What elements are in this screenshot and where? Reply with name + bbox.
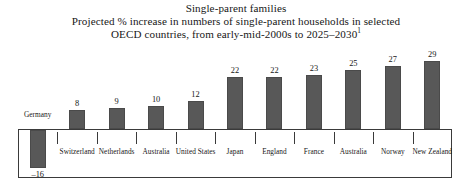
category-label: France xyxy=(294,147,333,156)
chart-title-line-2: Projected % increase in numbers of singl… xyxy=(0,15,472,28)
bar-column: 22Japan xyxy=(215,44,254,193)
bar-column: –16Germany xyxy=(18,44,57,193)
cell-divider xyxy=(215,132,216,144)
category-label: Japan xyxy=(215,147,254,156)
category-label: Netherlands xyxy=(97,147,136,156)
category-label: United States xyxy=(176,147,215,156)
bar-column: 25Australia xyxy=(334,44,373,193)
bar-column: 23France xyxy=(294,44,333,193)
bar-value-label: –16 xyxy=(18,170,57,179)
category-label: Australia xyxy=(334,147,373,156)
category-label: New Zealand xyxy=(413,147,452,156)
bar xyxy=(109,108,125,129)
bar-value-label: 8 xyxy=(57,99,96,108)
bar-value-label: 25 xyxy=(334,59,373,68)
bar-value-label: 23 xyxy=(294,64,333,73)
cell-divider xyxy=(334,132,335,144)
category-label: Switzerland xyxy=(57,147,96,156)
bar xyxy=(69,110,85,129)
cell-divider xyxy=(176,132,177,144)
bar xyxy=(385,66,401,129)
category-label: England xyxy=(255,147,294,156)
bar-column: 29New Zealand xyxy=(413,44,452,193)
cell-divider xyxy=(97,132,98,144)
bar-value-label: 9 xyxy=(97,97,136,106)
bar-value-label: 29 xyxy=(413,50,452,59)
cell-divider xyxy=(294,132,295,144)
category-label: Australia xyxy=(136,147,175,156)
bar-column: 27Norway xyxy=(373,44,412,193)
cell-divider xyxy=(136,132,137,144)
category-label: Germany xyxy=(18,110,57,119)
footnote-marker: 1 xyxy=(357,28,361,36)
bar-value-label: 12 xyxy=(176,90,215,99)
plot-area: –16Germany8Switzerland9Netherlands10Aust… xyxy=(0,44,472,193)
bar-value-label: 22 xyxy=(255,66,294,75)
chart-figure: Single-parent families Projected % incre… xyxy=(0,0,472,193)
bar xyxy=(227,77,243,129)
bar-column: 12United States xyxy=(176,44,215,193)
bar xyxy=(188,101,204,129)
bar-column: 10Australia xyxy=(136,44,175,193)
cell-divider xyxy=(255,132,256,144)
bar xyxy=(30,130,46,168)
bar-column: 8Switzerland xyxy=(57,44,96,193)
chart-title-block: Single-parent families Projected % incre… xyxy=(0,2,472,42)
bar xyxy=(345,70,361,129)
chart-title-line-1: Single-parent families xyxy=(0,2,472,15)
chart-title-line-3: OECD countries, from early-mid-2000s to … xyxy=(0,28,472,41)
cell-divider xyxy=(413,132,414,144)
cell-divider xyxy=(373,132,374,144)
bar xyxy=(266,77,282,129)
bar-value-label: 27 xyxy=(373,55,412,64)
bar xyxy=(306,75,322,129)
bar xyxy=(424,61,440,129)
bar-column: 9Netherlands xyxy=(97,44,136,193)
chart-title-line-3-text: OECD countries, from early-mid-2000s to … xyxy=(111,28,357,40)
cell-divider xyxy=(57,132,58,144)
bar-column: 22England xyxy=(255,44,294,193)
bar-value-label: 10 xyxy=(136,95,175,104)
bar-value-label: 22 xyxy=(215,66,254,75)
category-label: Norway xyxy=(373,147,412,156)
bar xyxy=(148,106,164,129)
